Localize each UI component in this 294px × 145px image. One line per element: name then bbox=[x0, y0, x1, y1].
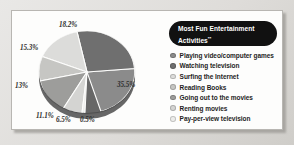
chart-title-pill: Most Fun Entertainment Activities** bbox=[169, 21, 277, 46]
pie-label-18-2: 18.2% bbox=[59, 21, 77, 29]
pie-label-35-5: 35.5% bbox=[117, 81, 135, 89]
chart-title-footnote-marker: ** bbox=[208, 36, 212, 41]
legend-swatch-icon bbox=[170, 84, 176, 90]
pie-label-13: 13% bbox=[15, 82, 28, 90]
legend-swatch-icon bbox=[170, 95, 176, 101]
legend-item-label: Reading Books bbox=[180, 84, 227, 91]
pie-slice-playing-video-computer-games bbox=[87, 69, 135, 112]
pie-svg bbox=[39, 31, 135, 113]
legend-swatch-icon bbox=[170, 116, 176, 122]
legend-item-reading-books[interactable]: Reading Books bbox=[170, 82, 283, 93]
legend-item-playing-video-computer-games[interactable]: Playing video/computer games bbox=[170, 50, 283, 61]
legend-panel: Most Fun Entertainment Activities** Play… bbox=[162, 11, 283, 130]
chart-card: 18.2% 15.3% 13% 11.1% 6.5% 0.5% 35.5% Mo… bbox=[11, 10, 283, 130]
pie-label-15-3: 15.3% bbox=[20, 44, 38, 52]
legend-swatch-icon bbox=[170, 105, 176, 111]
pie-label-11-1: 11.1% bbox=[36, 112, 54, 120]
legend-item-label: Watching television bbox=[180, 62, 240, 69]
pie-graphic bbox=[39, 31, 135, 113]
legend-item-label: Surfing the Internet bbox=[180, 73, 239, 80]
chart-title-line1: Most Fun Entertainment bbox=[178, 25, 255, 32]
legend-swatch-icon bbox=[170, 74, 176, 80]
legend-item-watching-television[interactable]: Watching television bbox=[170, 61, 283, 72]
legend-item-renting-movies[interactable]: Renting movies bbox=[170, 103, 283, 114]
legend-item-label: Playing video/computer games bbox=[180, 52, 274, 59]
legend-item-label: Pay-per-view television bbox=[180, 115, 251, 122]
legend-list: Playing video/computer games Watching te… bbox=[170, 50, 283, 124]
legend-item-label: Renting movies bbox=[180, 105, 228, 112]
legend-item-going-out-to-the-movies[interactable]: Going out to the movies bbox=[170, 92, 283, 103]
legend-item-pay-per-view-television[interactable]: Pay-per-view television bbox=[170, 114, 283, 125]
legend-swatch-icon bbox=[170, 63, 176, 69]
chart-title-line2: Activities bbox=[178, 37, 208, 44]
pie-label-6-5: 6.5% bbox=[56, 116, 71, 124]
pie-top-face bbox=[39, 31, 135, 113]
legend-item-surfing-the-internet[interactable]: Surfing the Internet bbox=[170, 71, 283, 82]
pie-chart-area: 18.2% 15.3% 13% 11.1% 6.5% 0.5% 35.5% bbox=[12, 11, 162, 130]
pie-label-0-5: 0.5% bbox=[80, 116, 95, 124]
legend-item-label: Going out to the movies bbox=[180, 94, 253, 101]
legend-swatch-icon bbox=[170, 53, 176, 59]
chart-figure: 18.2% 15.3% 13% 11.1% 6.5% 0.5% 35.5% Mo… bbox=[0, 0, 294, 145]
